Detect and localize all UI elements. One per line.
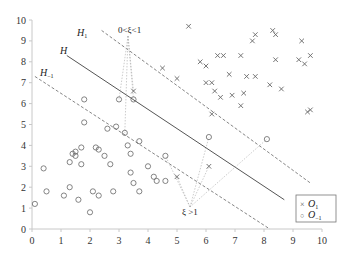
point-class-1 — [204, 64, 209, 69]
point-class-1 — [273, 32, 278, 37]
point-class-minus-1 — [137, 139, 142, 144]
point-class-minus-1 — [108, 162, 113, 167]
point-class-minus-1 — [128, 170, 133, 175]
point-class-1 — [279, 87, 284, 92]
point-class-1 — [239, 103, 244, 108]
y-tick-label: 3 — [21, 161, 26, 172]
legend: × O1 ○ O−1 — [296, 195, 336, 222]
point-class-1 — [308, 108, 313, 113]
point-class-minus-1 — [163, 178, 168, 183]
point-class-1 — [241, 91, 246, 96]
point-class-1 — [210, 112, 215, 117]
point-class-1 — [210, 80, 215, 85]
x-tick-label: 8 — [262, 235, 267, 246]
y-tick-label: 10 — [16, 15, 26, 26]
x-tick-label: 10 — [317, 235, 327, 246]
point-class-1 — [253, 32, 258, 37]
annotation-margin-violation: 0<ξ<1 — [118, 25, 141, 35]
point-class-1 — [204, 80, 209, 85]
x-tick-label: 2 — [88, 235, 93, 246]
x-tick-label: 5 — [175, 235, 180, 246]
x-ticks: 012345678910 — [30, 229, 328, 246]
y-tick-label: 4 — [21, 140, 26, 151]
y-ticks: 012345678910 — [16, 15, 32, 235]
point-class-1 — [221, 53, 226, 58]
label-H-minus-1: H−1 — [39, 67, 54, 79]
point-class-1 — [299, 39, 304, 44]
y-tick-label: 7 — [21, 77, 26, 88]
point-class-minus-1 — [61, 193, 66, 198]
y-tick-label: 2 — [21, 182, 26, 193]
guide-line — [177, 177, 190, 207]
x-tick-label: 3 — [117, 235, 122, 246]
point-class-minus-1 — [105, 126, 110, 131]
point-class-1 — [253, 74, 258, 79]
data-points — [32, 24, 312, 215]
point-class-1 — [175, 76, 180, 81]
x-tick-label: 1 — [59, 235, 64, 246]
point-class-minus-1 — [87, 210, 92, 215]
point-class-minus-1 — [76, 197, 81, 202]
guide-line — [190, 166, 209, 207]
point-class-minus-1 — [79, 145, 84, 150]
label-H1: H1 — [76, 27, 87, 39]
line-Hminus-1 — [102, 30, 311, 183]
point-class-minus-1 — [90, 189, 95, 194]
point-class-minus-1 — [128, 151, 133, 156]
point-class-1 — [270, 28, 275, 33]
point-class-minus-1 — [96, 193, 101, 198]
point-class-1 — [305, 110, 310, 115]
legend-x-marker-icon: × — [300, 200, 305, 209]
point-class-minus-1 — [82, 97, 87, 102]
point-class-1 — [207, 164, 212, 169]
point-class-1 — [215, 53, 220, 58]
guide-line — [128, 36, 134, 91]
point-class-1 — [268, 82, 273, 87]
point-class-1 — [212, 89, 217, 94]
point-class-minus-1 — [131, 180, 136, 185]
point-class-1 — [186, 24, 191, 29]
point-class-minus-1 — [154, 178, 159, 183]
legend-circle-marker-icon: ○ — [300, 212, 304, 220]
x-tick-label: 6 — [204, 235, 209, 246]
y-tick-label: 8 — [21, 56, 26, 67]
point-class-minus-1 — [44, 189, 49, 194]
point-class-1 — [308, 53, 313, 58]
svm-scatter-chart: 012345678910 012345678910 H H1 H−1 0<ξ<1… — [0, 0, 347, 261]
y-tick-label: 9 — [21, 35, 26, 46]
point-class-minus-1 — [82, 120, 87, 125]
guide-line — [125, 36, 128, 133]
guide-line — [119, 36, 128, 99]
x-tick-label: 7 — [233, 235, 238, 246]
point-class-minus-1 — [79, 162, 84, 167]
point-class-1 — [250, 39, 255, 44]
point-class-minus-1 — [206, 134, 211, 139]
y-tick-label: 5 — [21, 119, 26, 130]
point-class-minus-1 — [114, 124, 119, 129]
label-H: H — [59, 45, 68, 56]
point-class-minus-1 — [111, 189, 116, 194]
guide-line — [190, 139, 267, 207]
point-class-minus-1 — [41, 166, 46, 171]
point-class-minus-1 — [137, 189, 142, 194]
point-class-minus-1 — [125, 143, 130, 148]
point-class-minus-1 — [67, 160, 72, 165]
point-class-minus-1 — [67, 185, 72, 190]
slack-guide-lines — [119, 36, 267, 207]
point-class-1 — [244, 74, 249, 79]
point-class-1 — [239, 53, 244, 58]
point-class-1 — [227, 72, 232, 77]
point-class-1 — [131, 89, 136, 94]
y-tick-label: 1 — [21, 203, 26, 214]
point-class-1 — [230, 93, 235, 98]
line-labels: H H1 H−1 0<ξ<1 ξ >1 — [39, 25, 198, 217]
point-class-1 — [302, 62, 307, 67]
point-class-1 — [218, 95, 223, 100]
x-tick-label: 4 — [146, 235, 151, 246]
point-class-1 — [160, 66, 165, 71]
annotation-misclassified: ξ >1 — [182, 207, 198, 217]
x-tick-label: 0 — [30, 235, 35, 246]
point-class-1 — [198, 60, 203, 65]
x-tick-label: 9 — [291, 235, 296, 246]
guide-line — [165, 156, 190, 207]
